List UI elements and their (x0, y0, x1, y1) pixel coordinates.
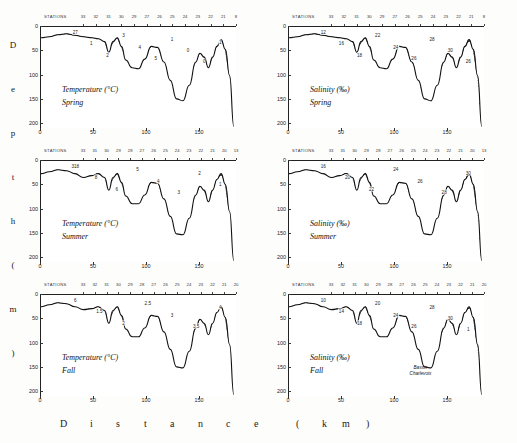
x-axis-tick-mark (447, 396, 448, 399)
x-axis-label-char: a (170, 418, 174, 429)
x-axis-label-char: ( (296, 418, 299, 429)
isoline (41, 34, 235, 73)
station-number: 30 (116, 282, 121, 287)
station-number: 25 (411, 148, 416, 153)
station-number: 26 (399, 148, 404, 153)
isoline (289, 297, 483, 311)
station-number: 20 (234, 282, 239, 287)
x-axis-tick-mark (146, 128, 147, 131)
y-axis-tick-mark (288, 160, 291, 161)
x-axis-tick-mark (341, 396, 342, 399)
station-number: 29 (380, 14, 385, 19)
plot-svg (41, 27, 236, 128)
station-number: 33 (329, 14, 334, 19)
panel-caption-season: Spring (62, 98, 83, 107)
x-axis-tick-mark (288, 128, 289, 131)
contour-label: 1.5 (96, 309, 103, 314)
station-number: 13 (482, 148, 487, 153)
y-axis-tick-label: 50 (32, 315, 38, 321)
station-number: 25 (163, 148, 168, 153)
station-number: 27 (140, 148, 145, 153)
station-number: 33 (329, 282, 334, 287)
station-number: 31 (354, 14, 359, 19)
station-number: 22 (446, 148, 451, 153)
station-number: 28 (128, 148, 133, 153)
contour-label: 8 (94, 175, 97, 180)
y-axis-tick-mark (288, 50, 291, 51)
y-axis-tick-mark (40, 294, 43, 295)
y-axis-tick-mark (40, 75, 43, 76)
panel-caption-variable: Temperature (°C) (62, 85, 118, 94)
isoline (289, 29, 483, 43)
y-axis-tick-mark (288, 75, 291, 76)
y-axis-tick-mark (40, 123, 43, 124)
contour-label: 26 (465, 59, 471, 64)
y-axis-tick-mark (288, 99, 291, 100)
station-number: 27 (151, 282, 156, 287)
contour-label: 26 (411, 56, 417, 61)
station-header: STATIONS (44, 14, 67, 19)
station-number: 21 (210, 148, 215, 153)
contour-label: 3 (177, 190, 180, 195)
x-axis-label-char: e (254, 418, 258, 429)
y-axis-tick-mark (288, 209, 291, 210)
isoline (41, 168, 235, 207)
x-axis-label-char: n (198, 418, 203, 429)
y-axis-tick-label: 200 (277, 254, 286, 260)
basin-annotation: BassinCharlevoix (410, 365, 432, 376)
x-axis-tick-mark (394, 396, 395, 399)
panel-caption-variable: Temperature (°C) (62, 219, 118, 228)
station-number: 28 (140, 282, 145, 287)
y-axis-label-char: D (2, 40, 24, 50)
contour-label: 1 (467, 327, 470, 332)
x-axis-tick-mark (199, 262, 200, 265)
y-axis-tick-label: 100 (277, 340, 286, 346)
station-number: 23 (187, 148, 192, 153)
y-axis-label-char: ( (2, 260, 24, 270)
station-number: 30 (367, 14, 372, 19)
station-number: 30 (364, 282, 369, 287)
y-axis-tick-mark (40, 367, 43, 368)
station-number: 8 (235, 14, 237, 19)
station-number: 32 (94, 14, 99, 19)
isoline (289, 164, 483, 184)
contour-label: 2 (122, 320, 125, 325)
y-axis-tick-label: 150 (277, 230, 286, 236)
station-number: 27 (144, 14, 149, 19)
panel-caption-variable: Salinity (‰) (310, 85, 350, 94)
station-number: 20 (470, 148, 475, 153)
station-number: 22 (198, 148, 203, 153)
contour-label: 22 (375, 33, 381, 38)
y-axis-tick-mark (40, 50, 43, 51)
station-header: STATIONS (292, 14, 315, 19)
contour-label: 1 (90, 41, 93, 46)
contour-label: 28 (429, 304, 435, 309)
station-number: 29 (116, 148, 121, 153)
station-number: 24 (183, 14, 188, 19)
y-axis-tick-mark (40, 391, 43, 392)
y-axis-tick-label: 100 (29, 206, 38, 212)
contour-label: 318 (71, 164, 79, 169)
stipple-region (389, 296, 484, 393)
isoline (41, 29, 235, 43)
contour-label: 0 (203, 59, 206, 64)
station-number: 24 (187, 282, 192, 287)
plot-area-salinity-fall (288, 294, 484, 396)
contour-label: 16 (339, 41, 345, 46)
station-number: 23 (443, 14, 448, 19)
x-axis-tick-mark (288, 262, 289, 265)
contour-label: 4 (219, 304, 222, 309)
contour-label: 0 (187, 48, 190, 53)
contour-label: 2 (198, 170, 201, 175)
station-header: STATIONS (292, 148, 315, 153)
x-axis-label-char: D (60, 418, 67, 429)
station-number: 23 (435, 148, 440, 153)
isoline (289, 163, 483, 177)
y-axis-tick-mark (40, 184, 43, 185)
stipple-region (389, 28, 484, 127)
bathymetry-line (41, 303, 234, 395)
station-tick (484, 292, 485, 294)
station-number: 22 (208, 14, 213, 19)
x-axis-label-char: s (116, 418, 120, 429)
contour-label: 3.5 (193, 324, 200, 329)
